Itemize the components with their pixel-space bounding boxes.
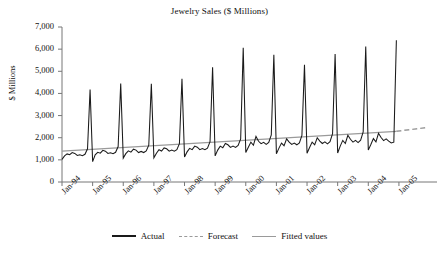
legend-label: Forecast — [208, 231, 239, 241]
legend-swatch-dashed-line-icon — [179, 236, 203, 237]
legend-item-fitted-values[interactable]: Fitted values — [252, 231, 327, 241]
jewelry-sales-chart: Jewelry Sales ($ Millions) $ Millions 7,… — [0, 0, 439, 253]
chart-legend: ActualForecastFitted values — [0, 231, 439, 241]
forecast-line — [396, 128, 427, 132]
legend-swatch-solid-line-icon — [112, 235, 136, 237]
legend-label: Fitted values — [281, 231, 327, 241]
legend-label: Actual — [141, 231, 165, 241]
legend-item-actual[interactable]: Actual — [112, 231, 165, 241]
legend-item-forecast[interactable]: Forecast — [179, 231, 239, 241]
axes-group — [58, 27, 437, 186]
plot-area — [0, 0, 439, 253]
legend-swatch-solid-line-icon — [252, 236, 276, 237]
actual-series-line — [62, 40, 396, 161]
y-axis-ticks — [58, 27, 62, 182]
